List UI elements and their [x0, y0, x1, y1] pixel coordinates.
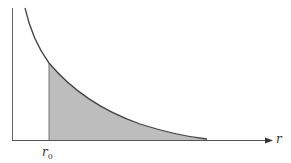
- r0-label: r0: [42, 146, 53, 161]
- shaded-region: [49, 63, 207, 140]
- r0-label-subscript: 0: [48, 152, 53, 161]
- x-axis-label: r: [276, 133, 282, 145]
- diagram-canvas: [0, 0, 291, 163]
- x-axis-arrowhead-icon: [265, 138, 273, 144]
